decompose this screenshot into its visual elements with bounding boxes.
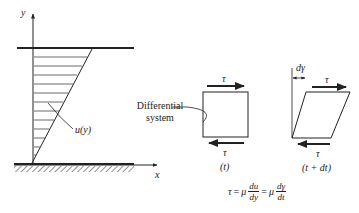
eq-frac2-num: dγ bbox=[276, 181, 286, 192]
velocity-profile-label: u(y) bbox=[75, 125, 91, 135]
element-at-t-dt bbox=[292, 68, 350, 144]
eq-equals-2: = bbox=[261, 186, 267, 197]
tau-bottom-t-dt: τ bbox=[316, 149, 320, 159]
eq-tau: τ bbox=[228, 186, 232, 197]
eq-frac1-num: du bbox=[248, 181, 259, 192]
time-label-t-dt: (t + dt) bbox=[302, 163, 331, 173]
eq-mu-2: μ bbox=[269, 186, 274, 197]
tau-top-t-dt: τ bbox=[325, 75, 329, 85]
x-axis-label: x bbox=[155, 170, 159, 180]
angle-label-dgamma: dγ bbox=[296, 63, 305, 73]
differential-system-label-line1: Differential bbox=[134, 101, 186, 111]
tau-bottom-t: τ bbox=[223, 148, 227, 158]
time-label-t: (t) bbox=[220, 162, 229, 172]
eq-frac1-den: dy bbox=[250, 192, 259, 202]
viscosity-equation: τ = μ du dy = μ dγ dt bbox=[228, 181, 286, 202]
eq-frac2-den: dt bbox=[277, 192, 284, 202]
tau-top-t: τ bbox=[222, 74, 226, 84]
eq-fraction-du-dy: du dy bbox=[248, 181, 259, 202]
eq-fraction-dgamma-dt: dγ dt bbox=[276, 181, 286, 202]
eq-equals-1: = bbox=[234, 186, 240, 197]
differential-system-label-line2: system bbox=[134, 113, 186, 123]
velocity-profile bbox=[32, 49, 92, 163]
y-axis-label: y bbox=[21, 8, 25, 18]
eq-mu-1: μ bbox=[241, 186, 246, 197]
